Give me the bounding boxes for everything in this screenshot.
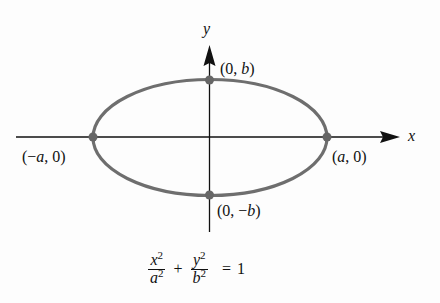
- var-x: x: [150, 251, 157, 268]
- label-text: (0,: [220, 60, 241, 77]
- label-text: (0, −: [217, 202, 247, 219]
- label-text: ): [255, 202, 260, 219]
- exponent: 2: [200, 249, 206, 261]
- label-text: ): [249, 60, 254, 77]
- ellipse-equation: x2 a2 + y2 b2 = 1: [146, 252, 245, 287]
- y-axis-label: y: [203, 21, 210, 37]
- right-point-label: (a, 0): [332, 149, 367, 165]
- var-a: a: [150, 269, 158, 286]
- point-right: [323, 133, 332, 142]
- fraction-x: x2 a2: [148, 252, 166, 287]
- top-point-label: (0, b): [220, 61, 255, 77]
- rhs-value: 1: [237, 260, 245, 278]
- label-text: , 0): [345, 148, 366, 165]
- exponent: 2: [158, 267, 164, 279]
- exponent: 2: [158, 249, 164, 261]
- var-b: b: [193, 269, 201, 286]
- fraction-y: y2 b2: [191, 252, 209, 287]
- y-axis-arrow-icon: [204, 45, 216, 66]
- x-axis-arrow-icon: [380, 131, 400, 143]
- exponent: 2: [201, 267, 207, 279]
- var-y: y: [193, 251, 200, 268]
- x-axis-label: x: [408, 128, 415, 144]
- point-top: [205, 76, 214, 85]
- denominator: b2: [191, 270, 209, 287]
- label-text: (−: [22, 148, 36, 165]
- bottom-point-label: (0, −b): [217, 203, 261, 219]
- ellipse-diagram: y x (0, b) (−a, 0) (a, 0) (0, −b) x2 a2 …: [0, 0, 440, 303]
- point-bottom: [205, 191, 214, 200]
- plus-sign: +: [174, 260, 183, 278]
- equals-sign: =: [222, 260, 231, 278]
- left-point-label: (−a, 0): [22, 149, 66, 165]
- denominator: a2: [148, 270, 166, 287]
- point-left: [89, 133, 98, 142]
- label-text: , 0): [44, 148, 65, 165]
